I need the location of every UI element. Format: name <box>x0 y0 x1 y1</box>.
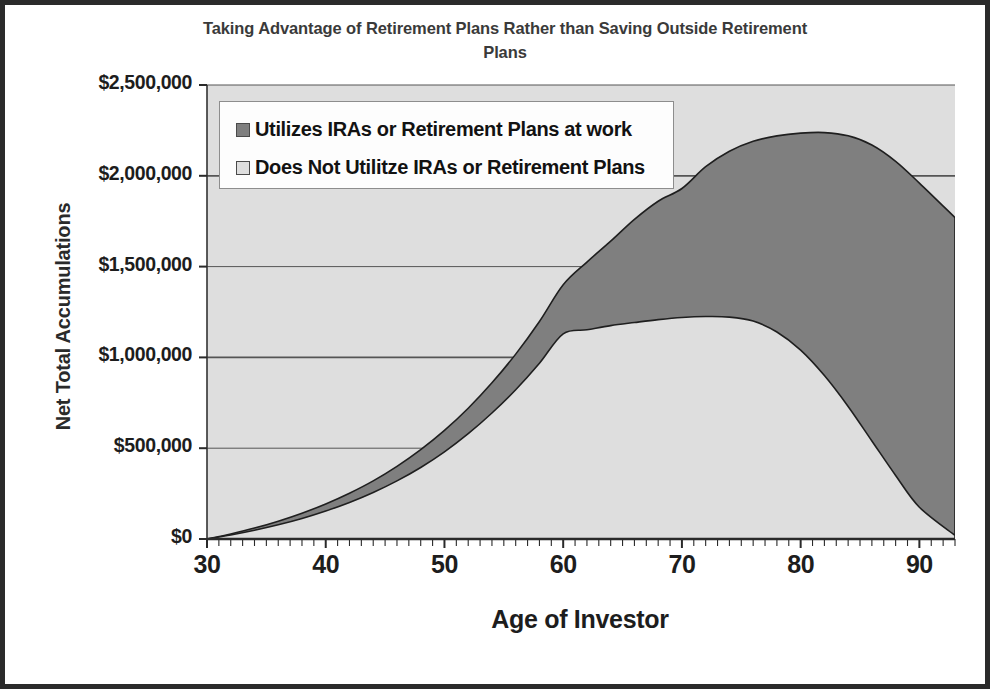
legend-item[interactable]: Utilizes IRAs or Retirement Plans at wor… <box>236 113 673 146</box>
legend-item[interactable]: Does Not Utilitze IRAs or Retirement Pla… <box>236 151 673 184</box>
chart-legend[interactable]: Utilizes IRAs or Retirement Plans at wor… <box>219 101 674 189</box>
legend-item-label: Does Not Utilitze IRAs or Retirement Pla… <box>255 156 645 179</box>
legend-item-label: Utilizes IRAs or Retirement Plans at wor… <box>255 118 632 141</box>
chart-figure: Taking Advantage of Retirement Plans Rat… <box>0 0 990 689</box>
legend-swatch-icon <box>236 161 250 175</box>
legend-swatch-icon <box>236 123 250 137</box>
